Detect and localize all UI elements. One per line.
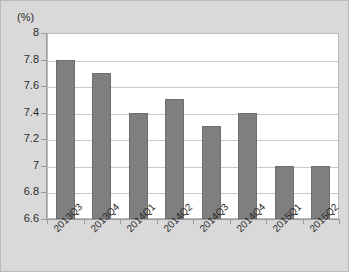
plot-area	[47, 33, 339, 219]
x-tick-mark	[230, 220, 231, 224]
x-tick-mark	[303, 220, 304, 224]
y-tick-mark	[41, 113, 46, 114]
y-axis-line	[46, 33, 47, 220]
y-tick-label: 7.4	[3, 107, 39, 118]
y-axis-tick-labels: 87.87.67.47.276.86.6	[1, 1, 39, 272]
y-tick-label: 6.6	[3, 213, 39, 224]
bar	[165, 99, 184, 219]
y-tick-mark	[41, 166, 46, 167]
y-tick-label: 7	[3, 160, 39, 171]
bar	[129, 113, 148, 219]
bar	[238, 113, 257, 219]
x-tick-mark	[47, 220, 48, 224]
x-tick-mark	[120, 220, 121, 224]
x-tick-mark	[157, 220, 158, 224]
x-tick-mark	[84, 220, 85, 224]
x-tick-mark	[339, 220, 340, 224]
bar	[56, 60, 75, 219]
y-tick-label: 6.8	[3, 186, 39, 197]
gridline	[48, 61, 338, 62]
x-tick-mark	[266, 220, 267, 224]
y-tick-mark	[41, 60, 46, 61]
x-tick-mark	[193, 220, 194, 224]
y-tick-mark	[41, 33, 46, 34]
y-tick-label: 7.6	[3, 80, 39, 91]
y-tick-mark	[41, 139, 46, 140]
y-tick-label: 8	[3, 27, 39, 38]
bar	[92, 73, 111, 219]
y-tick-label: 7.8	[3, 54, 39, 65]
bar-chart-figure: (%) 87.87.67.47.276.86.6 2013Q32013Q4201…	[0, 0, 349, 272]
y-tick-mark	[41, 192, 46, 193]
y-tick-mark	[41, 86, 46, 87]
y-tick-mark	[41, 219, 46, 220]
y-tick-label: 7.2	[3, 133, 39, 144]
